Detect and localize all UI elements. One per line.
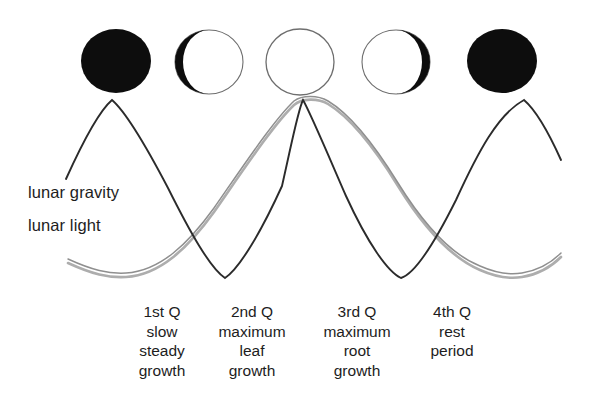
quarter-label-row: 1st Q slow steady growth 2nd Q maximum l…: [0, 302, 600, 407]
moon-full-moon-center: [266, 29, 334, 95]
lunar-light-label: lunar light: [28, 216, 101, 235]
quarter-label-4th-quarter: 4th Q rest period: [382, 302, 522, 361]
quarter-line: rest: [382, 322, 522, 342]
quarter-line: period: [382, 341, 522, 361]
moon-new-moon-left: [81, 29, 151, 93]
quarter-line: 4th Q: [382, 302, 522, 322]
moon-waxing-crescent: [362, 30, 430, 94]
moon-waning-crescent: [175, 30, 243, 94]
quarter-line: growth: [287, 361, 427, 381]
moon-phase-row: [81, 29, 537, 95]
lunar-cycle-diagram: lunar gravity lunar light 1st Q slow ste…: [0, 0, 600, 415]
moon-new-moon-right: [467, 29, 537, 93]
lunar-gravity-label: lunar gravity: [28, 183, 119, 202]
lunar-gravity-curve: [66, 100, 561, 278]
